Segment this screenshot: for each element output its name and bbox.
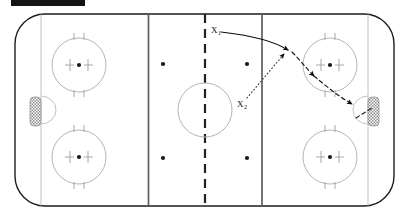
goal-net-right	[368, 97, 379, 126]
player-label-x1: X1	[211, 26, 221, 36]
neutral-dot-upper-left	[161, 62, 165, 66]
neutral-dot-upper-right	[245, 62, 249, 66]
player-label-x2: X2	[237, 100, 247, 110]
goal-net-left	[30, 97, 41, 126]
neutral-dot-lower-left	[161, 156, 165, 160]
screenshot-canvas: X1 X2	[0, 0, 409, 220]
hockey-rink-diagram	[0, 0, 409, 220]
neutral-dot-lower-right	[245, 156, 249, 160]
